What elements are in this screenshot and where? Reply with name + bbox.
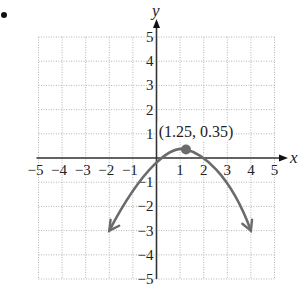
y-axis-arrow-icon [153,19,160,28]
x-tick-label: −3 [75,162,91,178]
y-tick-label: 5 [146,29,154,45]
y-tick-label: 4 [146,53,154,69]
y-tick-label: 2 [146,102,154,118]
x-tick-label: 2 [200,162,208,178]
x-tick-label: −1 [122,162,138,178]
axes [37,19,289,279]
x-tick-label: 5 [271,162,279,178]
x-tick-label: −4 [51,162,67,178]
problem-bullet [1,12,7,18]
x-tick-label: 4 [247,162,255,178]
x-axis-label: x [289,148,298,167]
y-tick-label: −3 [138,223,154,239]
x-tick-label: −2 [98,162,114,178]
y-tick-label: −4 [138,247,154,263]
x-axis-arrow-icon [279,155,288,162]
y-tick-label: 1 [146,126,154,142]
vertex-point [181,145,191,155]
y-tick-label: 3 [146,77,154,93]
x-tick-label: 3 [224,162,232,178]
vertex-annotation: (1.25, 0.35) [158,123,235,155]
y-tick-label: −2 [138,198,154,214]
vertex-label: (1.25, 0.35) [159,123,234,141]
x-tick-label: 1 [176,162,184,178]
parabola-graph: −5−4−3−2−11234554321−1−2−3−4−5 (1.25, 0.… [0,0,300,289]
y-axis-label: y [150,1,160,20]
y-tick-label: −5 [138,271,154,287]
x-tick-label: −5 [28,162,44,178]
